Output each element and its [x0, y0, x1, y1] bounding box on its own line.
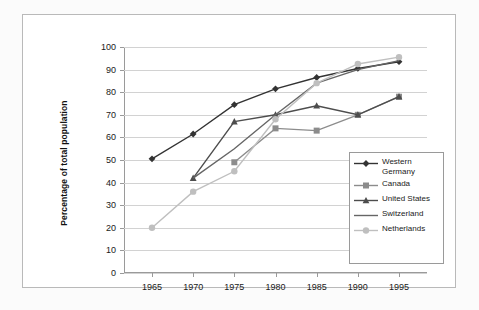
data-point-marker	[149, 225, 155, 231]
data-point-marker	[149, 155, 156, 162]
figure-frame: Percentage of total population 010203040…	[22, 14, 456, 288]
y-axis-title: Percentage of total population	[59, 100, 69, 225]
legend-item-united-states[interactable]: United States	[353, 194, 440, 207]
x-tick-mark	[234, 273, 235, 277]
legend-item-canada[interactable]: Canada	[353, 179, 440, 192]
y-tick-label: 70	[106, 110, 116, 120]
x-tick-mark	[358, 273, 359, 277]
x-tick-mark	[193, 273, 194, 277]
x-tick-mark	[399, 273, 400, 277]
legend-label: Netherlands	[382, 224, 425, 234]
y-tick-label: 80	[106, 87, 116, 97]
x-tick-mark	[276, 273, 277, 277]
x-tick-label: 1985	[307, 282, 327, 292]
data-point-marker	[363, 227, 369, 233]
y-tick-label: 90	[106, 65, 116, 75]
series-line	[152, 62, 399, 159]
x-tick-label: 1995	[389, 282, 409, 292]
legend-item-switzerland[interactable]: Switzerland	[353, 209, 440, 222]
x-tick-label: 1990	[348, 282, 368, 292]
legend-marker-icon	[353, 194, 379, 207]
data-point-marker	[363, 160, 370, 167]
data-point-marker	[272, 116, 278, 122]
data-point-marker	[313, 74, 320, 81]
legend-label: Western Germany	[382, 157, 415, 177]
series-western-germany	[149, 58, 403, 162]
legend-label: United States	[382, 194, 430, 204]
data-point-marker	[190, 188, 196, 194]
data-point-marker	[313, 80, 319, 86]
data-point-marker	[231, 159, 237, 165]
legend-item-netherlands[interactable]: Netherlands	[353, 224, 440, 237]
y-tick-label: 100	[101, 42, 116, 52]
data-point-marker	[363, 183, 369, 189]
legend: Western GermanyCanadaUnited StatesSwitze…	[349, 152, 444, 264]
data-point-marker	[396, 54, 402, 60]
y-tick-label: 0	[111, 268, 116, 278]
data-point-marker	[272, 85, 279, 92]
legend-item-western-germany[interactable]: Western Germany	[353, 157, 440, 177]
data-point-marker	[355, 61, 361, 67]
y-tick-label: 30	[106, 200, 116, 210]
x-tick-mark	[317, 273, 318, 277]
legend-marker-icon	[353, 157, 379, 170]
x-tick-label: 1970	[183, 282, 203, 292]
x-tick-label: 1965	[142, 282, 162, 292]
legend-label: Switzerland	[382, 209, 423, 219]
legend-marker-icon	[353, 224, 379, 237]
y-tick-label: 40	[106, 178, 116, 188]
y-tick-label: 50	[106, 155, 116, 165]
data-point-marker	[314, 128, 320, 134]
y-tick-mark	[120, 273, 124, 274]
legend-marker-icon	[353, 209, 379, 222]
y-tick-label: 20	[106, 223, 116, 233]
data-point-marker	[231, 168, 237, 174]
y-tick-label: 60	[106, 132, 116, 142]
legend-label: Canada	[382, 179, 410, 189]
data-point-marker	[313, 102, 320, 108]
data-point-marker	[273, 125, 279, 131]
x-tick-label: 1975	[224, 282, 244, 292]
y-tick-label: 10	[106, 245, 116, 255]
chart-screenshot: Percentage of total population 010203040…	[0, 0, 479, 310]
legend-marker-icon	[353, 179, 379, 192]
x-tick-mark	[152, 273, 153, 277]
x-tick-label: 1980	[265, 282, 285, 292]
